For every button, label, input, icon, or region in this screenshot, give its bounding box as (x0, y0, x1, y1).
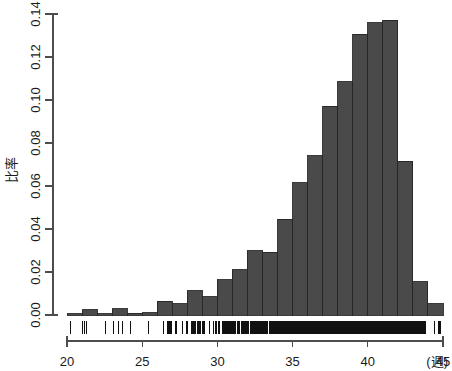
histogram-bar (232, 270, 247, 315)
histogram-bar (82, 310, 97, 315)
histogram-bar (353, 34, 368, 315)
y-axis-line (53, 14, 58, 315)
histogram-bar (112, 309, 127, 315)
y-tick-label: 0.14 (28, 1, 43, 26)
histogram-bar (263, 252, 278, 315)
histogram-bar (398, 161, 413, 315)
histogram-bar (368, 23, 383, 315)
histogram-bar (293, 183, 308, 315)
x-axis-tick-labels: 202530354045 (60, 354, 450, 369)
y-tick-label: 0.02 (28, 259, 43, 284)
x-axis: 202530354045 (60, 336, 450, 369)
histogram-bar (278, 219, 293, 315)
y-axis-tick-labels: 0.000.020.040.060.080.100.120.14 (28, 1, 43, 327)
x-tick-label: 25 (135, 354, 149, 369)
x-axis-line (67, 336, 443, 341)
histogram-bar (127, 313, 142, 315)
histogram-figure: 比率 0.000.020.040.060.080.100.120.14 2025… (0, 0, 452, 371)
y-axis: 0.000.020.040.060.080.100.120.14 (28, 1, 58, 327)
y-tick-label: 0.08 (28, 130, 43, 155)
histogram-bar (383, 20, 398, 315)
y-tick-label: 0.06 (28, 173, 43, 198)
histogram-bar (67, 314, 82, 315)
histogram-bar (97, 314, 112, 315)
y-tick-label: 0.12 (28, 44, 43, 69)
x-tick-label: 35 (285, 354, 299, 369)
histogram-bar (187, 291, 202, 315)
rug-plot (71, 321, 441, 334)
x-axis-ticks (67, 341, 443, 347)
x-tick-label: 30 (210, 354, 224, 369)
x-tick-label: 40 (361, 354, 375, 369)
y-tick-label: 0.00 (28, 302, 43, 327)
y-axis-title: 比率 (4, 157, 19, 183)
histogram-bar (338, 82, 353, 315)
histogram-bar (142, 313, 157, 315)
histogram-bar (172, 304, 187, 315)
histogram-bar (157, 301, 172, 315)
histogram-bars (67, 20, 443, 315)
histogram-svg: 比率 0.000.020.040.060.080.100.120.14 2025… (0, 0, 452, 371)
y-tick-label: 0.10 (28, 87, 43, 112)
histogram-bar (217, 280, 232, 315)
histogram-bar (323, 106, 338, 315)
x-tick-label: 20 (60, 354, 74, 369)
histogram-bar (202, 297, 217, 315)
histogram-bar (247, 251, 262, 316)
y-axis-ticks (45, 14, 53, 315)
histogram-bar (428, 304, 443, 315)
x-axis-unit-label: (週) (426, 354, 448, 369)
y-tick-label: 0.04 (28, 216, 43, 241)
histogram-bar (413, 282, 428, 315)
histogram-bar (308, 156, 323, 315)
